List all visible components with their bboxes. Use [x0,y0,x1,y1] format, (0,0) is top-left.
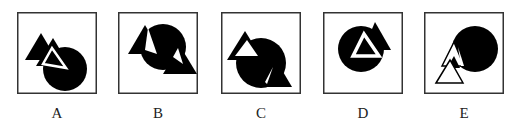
option-a-figure[interactable] [17,12,97,94]
option-c-figure[interactable] [221,12,301,94]
option-d-label: D [323,105,403,122]
option-e-figure[interactable] [424,12,504,94]
option-e-label: E [424,105,504,122]
option-d-figure[interactable] [323,12,403,94]
option-c-label: C [221,105,301,122]
option-a-label: A [17,105,97,122]
option-b-figure[interactable] [118,12,198,94]
option-b-label: B [118,105,198,122]
